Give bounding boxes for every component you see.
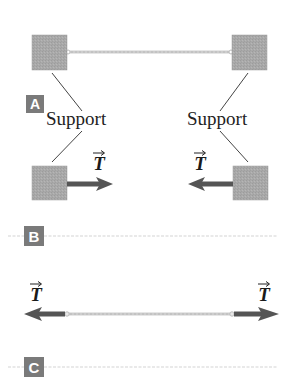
support-block-right (232, 35, 267, 70)
support-block-left (32, 35, 67, 70)
tension-arrow-left (24, 307, 65, 321)
leader-line (220, 131, 248, 162)
support-label-left: Support (46, 108, 107, 129)
tension-arrow-right (234, 307, 279, 321)
leader-line (52, 73, 82, 111)
badge-label: B (29, 228, 40, 245)
tension-vector-label: T (194, 151, 207, 175)
svg-text:T: T (30, 284, 43, 305)
svg-text:T: T (93, 153, 106, 174)
rope-tension-panel: T T (24, 282, 279, 322)
svg-text:T: T (258, 284, 271, 305)
badge-label: A (30, 96, 40, 112)
support-block-right (233, 166, 268, 200)
svg-text:T: T (194, 153, 207, 174)
tension-vector-label: T (30, 282, 43, 306)
leader-line (52, 131, 82, 162)
leader-line (220, 73, 248, 111)
tension-vector-label: T (258, 282, 271, 306)
tension-vector-label: T (93, 151, 106, 175)
tension-arrow-right (67, 177, 113, 191)
support-label-right: Support (187, 108, 248, 129)
badge-label: C (29, 359, 40, 376)
panel-c-divider: C (8, 357, 278, 377)
tension-arrow-left (188, 177, 233, 191)
panel-b-divider: B (8, 226, 278, 246)
rope-end (65, 312, 69, 316)
tension-diagram: A Support Support T T (0, 0, 303, 391)
panel-a: A Support Support T T (26, 35, 268, 200)
rope-end (230, 312, 234, 316)
support-block-left (32, 166, 67, 200)
